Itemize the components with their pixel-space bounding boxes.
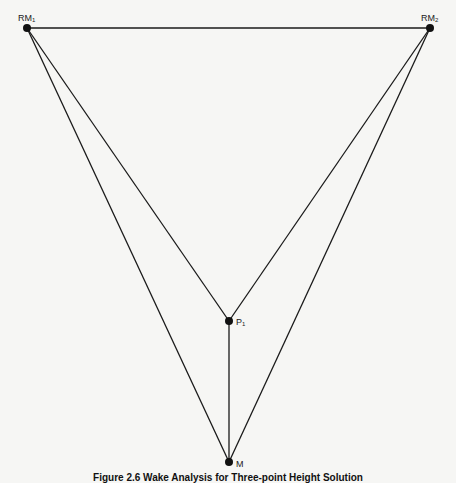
label-m-text: M — [236, 459, 244, 469]
label-rm2-sub: 2 — [435, 17, 438, 23]
node-rm1 — [23, 24, 31, 32]
edges — [27, 28, 430, 462]
label-rm1-text: RM — [18, 13, 32, 23]
label-m: M — [236, 459, 244, 469]
node-rm2 — [426, 24, 434, 32]
node-p1 — [225, 317, 233, 325]
figure-caption: Figure 2.6 Wake Analysis for Three-point… — [0, 471, 456, 483]
edge-rm1-m — [27, 28, 229, 462]
edge-rm2-m — [229, 28, 430, 462]
node-m — [225, 458, 233, 466]
edge-rm1-p1 — [27, 28, 229, 321]
label-p1: P1 — [236, 317, 245, 329]
label-rm2-text: RM — [421, 13, 435, 23]
edge-rm2-p1 — [229, 28, 430, 321]
label-rm1-sub: 1 — [32, 17, 35, 23]
label-p1-sub: 1 — [242, 321, 245, 327]
label-rm2: RM2 — [421, 13, 438, 25]
label-rm1: RM1 — [18, 13, 35, 25]
network-diagram — [0, 0, 456, 483]
